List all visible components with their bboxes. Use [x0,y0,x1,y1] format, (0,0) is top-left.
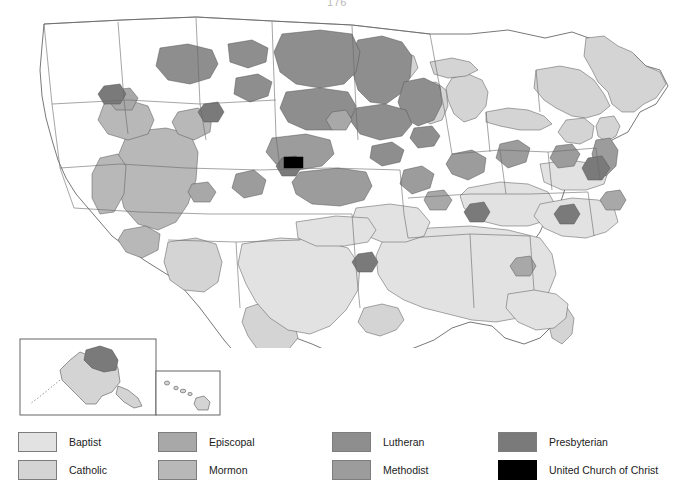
us-denomination-map [0,8,674,420]
legend-swatch-presbyterian [498,432,537,452]
legend-item-lutheran[interactable]: Lutheran [332,428,429,456]
legend-item-baptist[interactable]: Baptist [18,428,107,456]
hawaii-inset [156,371,220,415]
page-number: 176 [0,0,674,8]
region-catholic-new-mexico [164,238,222,292]
legend-item-presbyterian[interactable]: Presbyterian [498,428,658,456]
legend-label-mormon: Mormon [209,465,248,476]
legend-label-baptist: Baptist [69,437,101,448]
legend-column-lutheran: Lutheran Methodist [332,428,429,484]
map-container [0,8,674,420]
legend: Baptist Catholic Episcopal Mormon Luther… [0,428,674,494]
legend-swatch-baptist [18,432,57,452]
legend-column-presbyterian: Presbyterian United Church of Christ [498,428,658,484]
legend-label-catholic: Catholic [69,465,107,476]
legend-column-episcopal: Episcopal Mormon [158,428,255,484]
region-baptist-oklahoma [296,216,376,246]
legend-label-united-church-of-christ: United Church of Christ [549,465,658,476]
legend-item-united-church-of-christ[interactable]: United Church of Christ [498,456,658,484]
legend-label-presbyterian: Presbyterian [549,437,608,448]
legend-label-lutheran: Lutheran [383,437,424,448]
legend-label-methodist: Methodist [383,465,429,476]
legend-item-mormon[interactable]: Mormon [158,456,255,484]
alaska-inset [20,339,156,415]
legend-swatch-episcopal [158,432,197,452]
region-united-church-of-christ-county [284,157,303,168]
legend-column-baptist: Baptist Catholic [18,428,107,484]
legend-label-episcopal: Episcopal [209,437,255,448]
legend-swatch-mormon [158,460,197,480]
map-layer-lower48 [40,17,668,360]
legend-swatch-united-church-of-christ [498,460,537,480]
legend-swatch-methodist [332,460,371,480]
legend-item-catholic[interactable]: Catholic [18,456,107,484]
legend-item-episcopal[interactable]: Episcopal [158,428,255,456]
legend-swatch-lutheran [332,432,371,452]
legend-item-methodist[interactable]: Methodist [332,456,429,484]
legend-swatch-catholic [18,460,57,480]
